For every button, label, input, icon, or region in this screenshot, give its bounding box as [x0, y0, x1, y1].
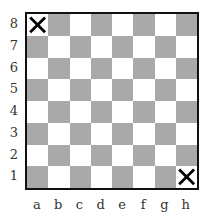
file-label-h: h: [176, 197, 196, 212]
square-g6: [155, 58, 176, 80]
rank-label-1: 1: [8, 168, 20, 183]
rank-label-3: 3: [8, 125, 20, 140]
square-g7: [155, 36, 176, 58]
square-c8: [70, 14, 91, 36]
square-g3: [155, 123, 176, 145]
square-e2: [112, 145, 133, 167]
square-f7: [133, 36, 154, 58]
square-a4: [27, 101, 48, 123]
square-d2: [91, 145, 112, 167]
square-a3: [27, 123, 48, 145]
square-d4: [91, 101, 112, 123]
square-b1: [48, 166, 69, 188]
square-c4: [70, 101, 91, 123]
square-h6: [176, 58, 197, 80]
square-c3: [70, 123, 91, 145]
square-b7: [48, 36, 69, 58]
file-label-f: f: [133, 197, 153, 212]
square-a7: [27, 36, 48, 58]
square-d6: [91, 58, 112, 80]
square-e4: [112, 101, 133, 123]
square-h3: [176, 123, 197, 145]
x-mark-icon: [176, 166, 197, 188]
square-g2: [155, 145, 176, 167]
file-label-d: d: [91, 197, 111, 212]
square-f4: [133, 101, 154, 123]
file-label-a: a: [27, 197, 47, 212]
square-a2: [27, 145, 48, 167]
file-label-c: c: [70, 197, 90, 212]
square-d1: [91, 166, 112, 188]
square-f6: [133, 58, 154, 80]
file-label-b: b: [48, 197, 68, 212]
square-e8: [112, 14, 133, 36]
square-f8: [133, 14, 154, 36]
square-a5: [27, 79, 48, 101]
square-h8: [176, 14, 197, 36]
rank-label-2: 2: [8, 147, 20, 162]
square-b2: [48, 145, 69, 167]
file-label-e: e: [112, 197, 132, 212]
rank-label-4: 4: [8, 103, 20, 118]
square-g1: [155, 166, 176, 188]
square-c1: [70, 166, 91, 188]
square-b3: [48, 123, 69, 145]
square-h1: [176, 166, 197, 188]
file-label-g: g: [155, 197, 175, 212]
square-e1: [112, 166, 133, 188]
square-e5: [112, 79, 133, 101]
chessboard: [25, 12, 199, 190]
square-d5: [91, 79, 112, 101]
square-b6: [48, 58, 69, 80]
square-g8: [155, 14, 176, 36]
square-f3: [133, 123, 154, 145]
square-g5: [155, 79, 176, 101]
square-c6: [70, 58, 91, 80]
square-d3: [91, 123, 112, 145]
square-b8: [48, 14, 69, 36]
square-e6: [112, 58, 133, 80]
square-f5: [133, 79, 154, 101]
square-d8: [91, 14, 112, 36]
square-g4: [155, 101, 176, 123]
square-h5: [176, 79, 197, 101]
square-h2: [176, 145, 197, 167]
square-c2: [70, 145, 91, 167]
square-c7: [70, 36, 91, 58]
square-h4: [176, 101, 197, 123]
rank-label-7: 7: [8, 38, 20, 53]
square-f1: [133, 166, 154, 188]
x-mark-icon: [27, 14, 48, 36]
square-e3: [112, 123, 133, 145]
square-h7: [176, 36, 197, 58]
square-e7: [112, 36, 133, 58]
square-c5: [70, 79, 91, 101]
rank-label-6: 6: [8, 60, 20, 75]
square-a6: [27, 58, 48, 80]
rank-label-8: 8: [8, 16, 20, 31]
square-b4: [48, 101, 69, 123]
square-b5: [48, 79, 69, 101]
square-a8: [27, 14, 48, 36]
square-f2: [133, 145, 154, 167]
square-d7: [91, 36, 112, 58]
rank-label-5: 5: [8, 81, 20, 96]
square-a1: [27, 166, 48, 188]
